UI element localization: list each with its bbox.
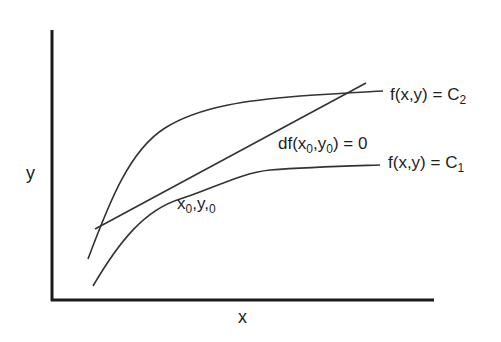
tangent-label-sub-b: 0 [326,142,333,156]
tangent-line-label: df(x0,y0) = 0 [278,135,367,152]
point-label-part-a: x [177,194,186,213]
y-axis-label: y [26,164,35,182]
level-curve-c1 [93,165,380,286]
c2-label-text: f(x,y) = C [390,85,459,104]
point-label: x0,y,0 [177,195,216,212]
level-curve-c2-label: f(x,y) = C2 [390,86,466,103]
point-label-sub-b: 0 [209,202,216,216]
tangent-label-part-b: ,y [313,134,326,153]
c1-label-subscript: 1 [457,161,464,175]
level-curve-c2 [88,91,383,259]
tangent-label-part-c: ) = 0 [333,134,368,153]
x-axis-label: x [238,308,247,326]
c2-label-subscript: 2 [459,93,466,107]
c1-label-text: f(x,y) = C [388,153,457,172]
level-curve-c1-label: f(x,y) = C1 [388,154,464,171]
tangent-label-part-a: df(x [278,134,306,153]
point-label-part-b: ,y, [192,194,209,213]
